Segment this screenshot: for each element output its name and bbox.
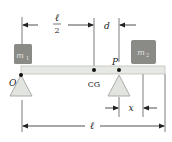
seesaw-diagram: ℓ 2 d m 1 m 2 O CG P x ℓ <box>0 0 172 142</box>
m2-label: m <box>137 48 145 57</box>
p-label: P <box>111 57 119 67</box>
length-label: ℓ <box>90 120 94 131</box>
m1-label: m <box>16 51 24 60</box>
point-cg <box>92 68 96 72</box>
half-length-numerator: ℓ <box>55 12 59 23</box>
mass-m2: m 2 <box>131 40 156 64</box>
mass-m1: m 1 <box>14 44 32 64</box>
o-label: O <box>9 78 17 88</box>
cg-label: CG <box>88 80 101 89</box>
half-length-denominator: 2 <box>54 26 59 35</box>
m1-subscript: 1 <box>26 55 29 61</box>
d-label: d <box>104 21 110 31</box>
x-label: x <box>128 103 133 113</box>
point-p <box>117 68 121 72</box>
extension-lines <box>22 17 165 132</box>
support-right <box>108 75 130 96</box>
m2-subscript: 2 <box>146 52 149 58</box>
point-o <box>19 73 23 77</box>
